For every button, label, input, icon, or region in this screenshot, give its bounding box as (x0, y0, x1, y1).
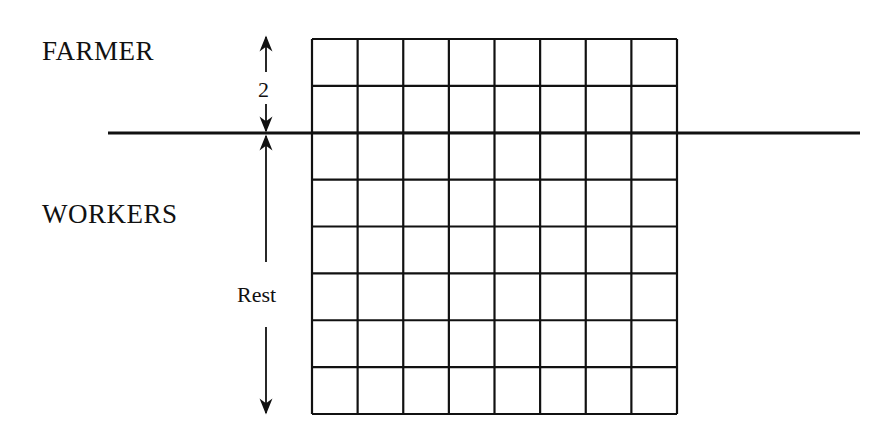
workers-size-label: Rest (237, 284, 276, 306)
farmer-label: FARMER (42, 38, 154, 65)
grid (312, 39, 677, 414)
farmer-size-label: 2 (258, 79, 269, 101)
workers-label: WORKERS (42, 201, 178, 228)
